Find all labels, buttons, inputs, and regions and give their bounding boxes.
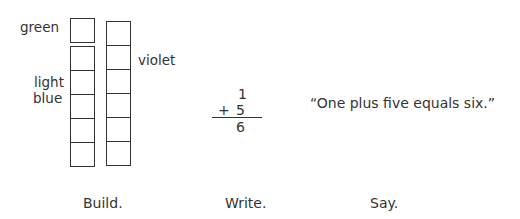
green-cube [70,18,95,43]
violet-cube [106,69,131,94]
green-label: green [20,20,59,35]
violet-cube [106,21,131,46]
addend-1: 1 [238,86,247,102]
violet-cube [106,141,131,166]
light-blue-label-line1: light [34,75,64,90]
light-blue-cube [70,70,95,95]
build-caption: Build. [83,196,123,211]
light-blue-cube [70,94,95,119]
light-blue-cube [70,118,95,143]
addend-2: 5 [236,102,245,118]
say-caption: Say. [370,196,398,211]
light-blue-cube [70,46,95,71]
violet-cube [106,93,131,118]
sum: 6 [236,119,245,135]
violet-cube [106,45,131,70]
write-caption: Write. [225,196,266,211]
light-blue-cube [70,142,95,167]
plus-operator: + [218,102,230,118]
violet-label: violet [138,53,175,68]
sum-line [212,117,262,118]
violet-cube [106,117,131,142]
spoken-sentence: “One plus five equals six.” [310,96,495,111]
light-blue-label-line2: blue [33,91,62,106]
